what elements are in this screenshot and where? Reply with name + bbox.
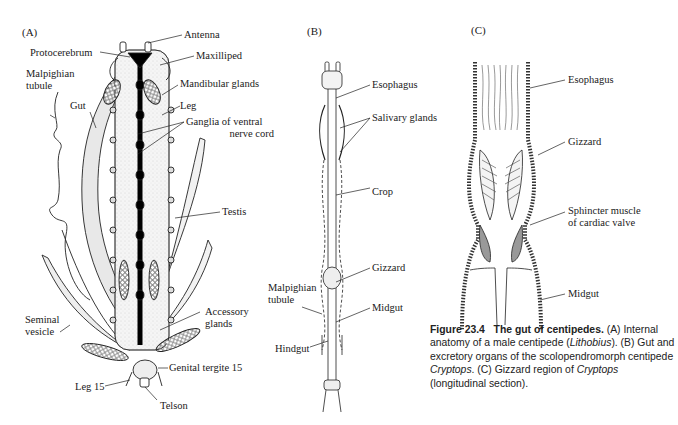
label-hindgut: Hindgut <box>275 343 309 355</box>
label-esophagus-b: Esophagus <box>372 79 418 91</box>
label-salivary-glands: Salivary glands <box>372 112 437 124</box>
panel-c-leaders <box>530 80 565 300</box>
label-seminal-2: vesicle <box>25 326 54 338</box>
label-malpighian-b-1: Malpighian <box>268 282 316 294</box>
label-seminal-1: Seminal <box>25 314 59 326</box>
figure-caption: Figure 23.4 The gut of centipedes. (A) I… <box>430 323 675 390</box>
label-gizzard-c: Gizzard <box>568 136 601 148</box>
label-maxilliped: Maxilliped <box>196 50 242 62</box>
label-telson: Telson <box>160 400 188 412</box>
caption-genus-3: Cryptops <box>577 364 619 375</box>
label-malpighian-a-1: Malpighian <box>26 68 74 80</box>
label-gizzard-b: Gizzard <box>372 262 405 274</box>
caption-number: Figure 23.4 <box>430 324 485 335</box>
label-genital-tergite: Genital tergite 15 <box>169 362 242 374</box>
label-crop: Crop <box>372 186 393 198</box>
label-sphincter-2: of cardiac valve <box>568 217 635 229</box>
label-sphincter-1: Sphincter muscle <box>568 205 641 217</box>
caption-text-3: . (C) Gizzard region of <box>472 364 577 375</box>
label-mandibular-glands: Mandibular glands <box>180 78 259 90</box>
label-esophagus-c: Esophagus <box>568 74 614 86</box>
label-testis: Testis <box>222 206 246 218</box>
panel-c-label: (C) <box>471 24 486 36</box>
label-accessory-1: Accessory <box>205 306 249 318</box>
caption-genus-2: Cryptops <box>430 364 472 375</box>
panel-b-drawing <box>320 62 345 412</box>
label-midgut-c: Midgut <box>568 288 599 300</box>
label-malpighian-a-2: tubule <box>26 80 52 92</box>
caption-title: The gut of centipedes. <box>494 324 604 335</box>
label-ganglia-2: nerve cord <box>196 128 274 140</box>
panel-c-drawing <box>462 62 541 330</box>
label-leg: Leg <box>180 100 196 112</box>
label-leg-15: Leg 15 <box>75 381 104 393</box>
panel-a-drawing <box>42 42 212 387</box>
label-gut: Gut <box>70 100 86 112</box>
label-ganglia-1: Ganglia of ventral <box>186 116 262 128</box>
label-accessory-2: glands <box>205 318 232 330</box>
caption-text-4: (longitudinal section). <box>430 378 528 389</box>
label-malpighian-b-2: tubule <box>268 294 294 306</box>
label-antenna: Antenna <box>184 29 220 41</box>
panel-a-label: (A) <box>22 26 37 38</box>
caption-genus-1: Lithobius <box>570 337 612 348</box>
label-midgut-b: Midgut <box>372 302 403 314</box>
label-protocerebrum: Protocerebrum <box>30 47 92 59</box>
panel-b-label: (B) <box>307 25 322 37</box>
